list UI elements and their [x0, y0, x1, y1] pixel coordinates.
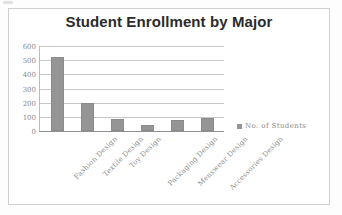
gridline: 0 — [40, 131, 224, 132]
scan-artifact — [3, 1, 13, 4]
y-axis-tick-label: 400 — [23, 71, 36, 79]
x-axis-tick-label: Fashion Design — [73, 135, 119, 181]
screenshot-canvas: Student Enrollment by Major 600500400300… — [0, 0, 342, 215]
y-axis-tick-label: 600 — [23, 43, 36, 51]
bar-slot — [102, 46, 132, 131]
bar-slot — [162, 46, 192, 131]
bar-slot — [42, 46, 72, 131]
bar-slot — [192, 46, 222, 131]
y-axis-tick-label: 0 — [32, 128, 36, 136]
legend-label: No. of Students — [245, 122, 306, 130]
bar[interactable] — [171, 120, 184, 131]
plot-area-wrapper: 6005004003002001000 — [39, 46, 224, 132]
x-axis-labels: Fashion DesignTextile DesignToy DesignPa… — [39, 133, 224, 203]
bar[interactable] — [111, 119, 124, 131]
chart-legend: No. of Students — [237, 122, 306, 130]
legend-swatch-icon — [237, 124, 242, 129]
y-axis-tick-label: 300 — [23, 86, 36, 94]
y-axis-tick-label: 200 — [23, 100, 36, 108]
bar-group — [40, 46, 224, 131]
plot-area: 6005004003002001000 — [39, 46, 224, 132]
y-axis-tick-label: 100 — [23, 114, 36, 122]
bar-slot — [72, 46, 102, 131]
y-axis-tick-label: 500 — [23, 57, 36, 65]
bar[interactable] — [51, 57, 64, 131]
bar[interactable] — [81, 103, 94, 131]
chart-title: Student Enrollment by Major — [9, 13, 329, 30]
x-axis-tick-label: Packaging Design — [166, 135, 219, 188]
bar[interactable] — [141, 125, 154, 131]
bar-slot — [132, 46, 162, 131]
chart-frame: Student Enrollment by Major 600500400300… — [8, 8, 330, 205]
bar[interactable] — [201, 118, 214, 131]
